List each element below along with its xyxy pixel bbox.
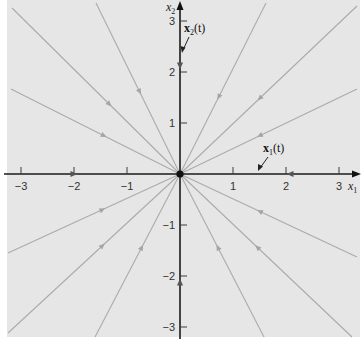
y-tick-label: 3 — [169, 15, 175, 27]
y-tick-label: −1 — [162, 219, 175, 231]
x1t-label: x1(t) — [263, 141, 284, 157]
phase-portrait: −3−2−1123 321−1−2−3 x1 x2 x2(t) x1(t) — [0, 0, 362, 345]
x-tick-label: 3 — [336, 180, 342, 192]
y-tick-label: 1 — [169, 117, 175, 129]
x-tick-label: −1 — [121, 180, 134, 192]
x-tick-label: −2 — [68, 180, 81, 192]
x2t-label: x2(t) — [184, 21, 205, 37]
x-tick-label: 2 — [283, 180, 289, 192]
equilibrium-point — [176, 170, 183, 177]
y-tick-label: −3 — [162, 321, 175, 333]
y-tick-label: −2 — [162, 270, 175, 282]
x-tick-label: 1 — [230, 180, 236, 192]
x-tick-label: −3 — [15, 180, 28, 192]
y-tick-label: 2 — [169, 66, 175, 78]
